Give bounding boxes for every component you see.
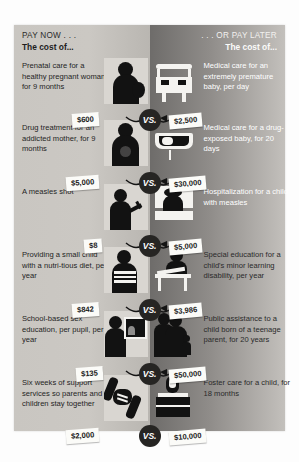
caption-right-1: Medical care for an extremely premature …: [204, 61, 292, 93]
price-tag-right-4: $3,986: [168, 303, 202, 319]
price-tag-left-4: $842: [72, 302, 100, 317]
price-tag-right-1: $2,500: [168, 113, 202, 129]
row-left-1: Prenatal care for a healthy pregnant wom…: [14, 55, 150, 117]
caption-left-1: Prenatal care for a healthy pregnant wom…: [22, 61, 108, 93]
price-tag-left-3: $8: [84, 238, 103, 253]
price-tag-right-3: $5,000: [168, 239, 202, 255]
pay-now-kicker: PAY NOW . . .: [22, 30, 150, 41]
caption-right-3: Hospitalization for a child with measles: [204, 187, 292, 208]
caption-left-2: Drug treatment for an addicted mother, f…: [22, 123, 108, 155]
price-tag-right-6: $10,000: [168, 428, 206, 445]
pay-later-kicker: . . . OR PAY LATER: [150, 30, 278, 41]
caption-left-6: Six weeks of support services so parents…: [22, 378, 108, 410]
caption-right-6: Foster care for a child, for 18 months: [204, 378, 292, 399]
art-pregnant-woman-silhouette: [104, 58, 148, 104]
vs-badge-6: VS.: [139, 425, 161, 447]
row-right-1: Medical care for an extremely premature …: [150, 55, 286, 117]
pay-later-subhead: The cost of...: [150, 41, 278, 53]
caption-right-4: Special education for a child's minor le…: [204, 250, 292, 282]
pay-now-subhead: The cost of...: [22, 41, 150, 53]
price-tag-left-5: $135: [76, 366, 104, 381]
pay-now-or-pay-later-infographic: PAY NOW . . . The cost of... Prenatal ca…: [14, 25, 285, 431]
vs-badge-2: VS.: [139, 172, 161, 194]
row-left-4: Providing a small child with a nutri-tio…: [14, 244, 150, 308]
row-left-3: A measles shot: [14, 181, 150, 244]
caption-right-2: Medical care for a drug-exposed baby, fo…: [204, 123, 292, 155]
pay-now-header: PAY NOW . . . The cost of...: [14, 30, 150, 53]
price-tag-left-1: $600: [72, 112, 100, 127]
row-left-5: School-based sex education, per pupil, p…: [14, 308, 150, 372]
art-incubator-silhouette: [152, 58, 196, 104]
price-tag-left-2: $5,000: [66, 175, 100, 191]
price-tag-left-6: $2,000: [66, 428, 100, 444]
caption-right-5: Public assistance to a child born of a t…: [204, 314, 292, 346]
vs-badge-3: VS.: [139, 235, 161, 257]
caption-left-4: Providing a small child with a nutri-tio…: [22, 250, 108, 282]
infographic-page: PAY NOW . . . The cost of... Prenatal ca…: [0, 0, 299, 462]
pay-later-header: . . . OR PAY LATER The cost of...: [150, 30, 286, 53]
vs-badge-4: VS.: [139, 299, 161, 321]
vs-badge-1: VS.: [139, 109, 161, 131]
row-left-6: Six weeks of support services so parents…: [14, 372, 150, 435]
vs-badge-5: VS.: [139, 363, 161, 385]
caption-left-5: School-based sex education, per pupil, p…: [22, 314, 108, 346]
